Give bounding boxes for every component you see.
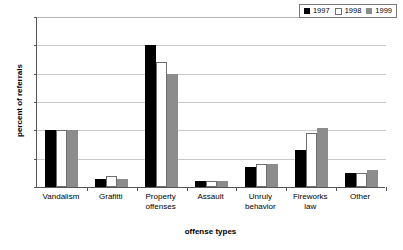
x-tick-label-line: Vandalism: [36, 192, 86, 202]
bar-1998-assault: [206, 181, 217, 187]
bar-1999-fireworks-law: [317, 128, 328, 188]
x-tick-label-line: Property: [136, 192, 186, 202]
x-tick-label-line: Other: [335, 192, 385, 202]
legend: 199719981999: [299, 4, 397, 18]
x-tick-label-line: Assault: [186, 192, 236, 202]
x-tick-label-line: behavior: [235, 202, 285, 212]
x-tick-mark: [336, 187, 337, 191]
bar-group: [336, 17, 386, 187]
legend-item-1998: 1998: [335, 7, 362, 15]
legend-swatch-icon: [335, 8, 342, 15]
bar-1999-unruly-behavior: [267, 164, 278, 187]
bar-1999-vandalism: [67, 130, 78, 187]
legend-item-1999: 1999: [366, 7, 392, 15]
x-tick-label-grafitti: Grafitti: [86, 192, 136, 218]
x-tick-mark: [286, 187, 287, 191]
bar-1999-grafitti: [117, 179, 128, 188]
x-tick-mark: [386, 187, 387, 191]
x-tick-mark: [187, 187, 188, 191]
x-axis-title: offense types: [36, 227, 385, 236]
bar-1999-assault: [217, 181, 228, 187]
x-tick-label-line: Unruly: [235, 192, 285, 202]
x-tick-mark: [87, 187, 88, 191]
bar-1997-fireworks-law: [295, 150, 306, 187]
bar-chart: percent of referrals 0102030405060 Vanda…: [0, 0, 403, 250]
bar-1999-property-offenses: [167, 74, 178, 187]
bar-1997-assault: [195, 181, 206, 187]
x-tick-label-line: offenses: [136, 202, 186, 212]
bar-1998-property-offenses: [156, 62, 167, 187]
x-tick-label-unruly-behavior: Unrulybehavior: [235, 192, 285, 218]
bar-1997-property-offenses: [145, 45, 156, 187]
y-axis-title: percent of referrals: [15, 41, 24, 161]
x-tick-label-fireworks-law: Fireworkslaw: [285, 192, 335, 218]
bar-1999-other: [367, 170, 378, 187]
plot-area: 0102030405060: [36, 17, 385, 188]
bar-group: [286, 17, 336, 187]
bar-1997-vandalism: [45, 130, 56, 187]
x-tick-label-line: law: [285, 202, 335, 212]
legend-label: 1998: [345, 7, 362, 15]
bar-group: [137, 17, 187, 187]
legend-label: 1997: [313, 7, 330, 15]
x-axis-labels: VandalismGrafittiPropertyoffensesAssault…: [36, 192, 385, 218]
bar-1997-grafitti: [95, 179, 106, 188]
x-tick-label-other: Other: [335, 192, 385, 218]
legend-item-1997: 1997: [304, 7, 330, 15]
x-tick-label-line: Grafitti: [86, 192, 136, 202]
bar-group: [187, 17, 237, 187]
bar-groups: [37, 17, 386, 187]
bar-1998-other: [356, 173, 367, 187]
bar-group: [37, 17, 87, 187]
x-tick-mark: [236, 187, 237, 191]
bar-group: [87, 17, 137, 187]
bar-group: [236, 17, 286, 187]
x-tick-label-vandalism: Vandalism: [36, 192, 86, 218]
x-tick-mark: [137, 187, 138, 191]
bar-1998-unruly-behavior: [256, 164, 267, 187]
legend-swatch-icon: [304, 8, 310, 14]
legend-label: 1999: [375, 7, 392, 15]
bar-1998-fireworks-law: [306, 133, 317, 187]
x-tick-label-property-offenses: Propertyoffenses: [136, 192, 186, 218]
x-tick-label-assault: Assault: [186, 192, 236, 218]
bar-1997-other: [345, 173, 356, 187]
x-tick-label-line: Fireworks: [285, 192, 335, 202]
y-tick-mark: [34, 187, 37, 188]
legend-swatch-icon: [366, 8, 372, 14]
bar-1998-grafitti: [106, 176, 117, 187]
bar-1998-vandalism: [56, 130, 67, 187]
bar-1997-unruly-behavior: [245, 167, 256, 187]
